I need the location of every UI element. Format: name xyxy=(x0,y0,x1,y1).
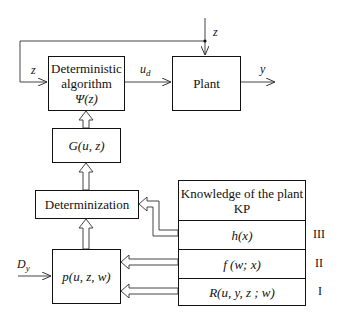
dy-label: Dy xyxy=(17,258,30,274)
determinization-label: Determinization xyxy=(45,197,129,212)
determinization-to-g-arrow xyxy=(79,163,93,190)
knowledge-of-plant-block: Knowledge of the plant KP h(x) f (w; x) … xyxy=(178,180,306,306)
kp-header-line1: Knowledge of the plant xyxy=(181,186,303,201)
h-to-determinization-arrow xyxy=(139,197,178,236)
level-iii-label: III xyxy=(313,227,325,242)
kp-header: Knowledge of the plant KP xyxy=(179,181,305,220)
kp-row-f: f (w; x) xyxy=(179,249,305,279)
ud-label: ud xyxy=(140,63,151,79)
z-top-label: z xyxy=(213,26,218,38)
g-label: G(u, z) xyxy=(68,138,104,153)
plant-block: Plant xyxy=(172,56,241,111)
level-ii-label: II xyxy=(315,256,323,271)
g-to-algorithm-arrow xyxy=(79,111,93,128)
deterministic-algorithm-block: Deterministic algorithm Ψ(z) xyxy=(48,56,125,111)
algorithm-psi: Ψ(z) xyxy=(75,91,98,106)
determinization-block: Determinization xyxy=(35,190,139,219)
p-block: p(u, z, w) xyxy=(52,249,121,304)
g-block: G(u, z) xyxy=(52,128,121,163)
f-to-p-arrow xyxy=(121,255,178,269)
level-i-label: I xyxy=(318,284,322,299)
p-to-determinization-arrow xyxy=(79,219,93,249)
plant-label: Plant xyxy=(193,76,220,91)
kp-header-line2: KP xyxy=(234,201,251,216)
p-label: p(u, z, w) xyxy=(62,269,110,284)
kp-row-r: R(u, y, z ; w) xyxy=(179,278,305,306)
r-to-p-arrow xyxy=(121,284,178,298)
junction-dot xyxy=(203,39,206,42)
y-label: y xyxy=(260,63,265,75)
z-left-label: z xyxy=(31,64,36,76)
algorithm-line1: Deterministic xyxy=(51,61,122,76)
kp-row-h: h(x) xyxy=(179,220,305,250)
algorithm-line2: algorithm xyxy=(61,76,112,91)
